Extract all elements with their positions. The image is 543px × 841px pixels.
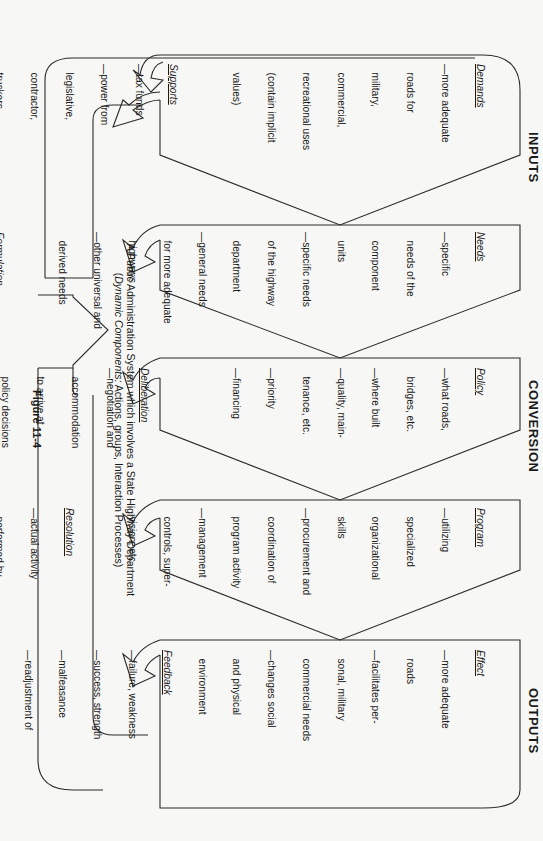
list-item: and physical [231,650,243,767]
diagram-caption: A Public Administration System which inv… [113,160,137,680]
list-item: environment [196,650,208,767]
section-title-feedback: Feedback [161,650,173,767]
list-item: —malfeasance [57,650,69,767]
list-item: department [231,232,243,329]
caption-italic: Dynamic Components: [113,276,125,382]
list-item: commercial, [335,64,347,150]
list-item: —more adequate [439,64,451,150]
list-item: program activity [231,508,243,595]
list-item: bridges, etc. [405,368,417,448]
section-title-supports: Supports [168,64,180,150]
list-item: commercial needs [300,650,312,767]
list-item: sonal, military [335,650,347,767]
section-title-effect: Effect [474,650,486,767]
list-item: recreational uses [300,64,312,150]
diagram-stage: INPUTS CONVERSION OUTPUTS Demands —more … [0,0,543,841]
list-item: —changes social [266,650,278,767]
list-item: specialized [405,508,417,595]
list-item: accommodation [69,368,81,448]
list-item: derived needs [57,232,69,329]
section-title-deliberation: Deliberation [139,368,151,448]
policy-box-text: Policy —what roads, bridges, etc. —where… [0,368,509,448]
section-title-program: Program [474,508,486,595]
list-item: —specific needs [300,232,312,329]
list-item: —facilitates per- [370,650,382,767]
list-item: —procurement and [300,508,312,595]
list-item: needs of the [405,232,417,329]
section-title-formulation: Formulation [0,232,5,329]
program-box-text: Program —utilizing specialized organizat… [0,508,509,595]
list-item: —utilizing [439,508,451,595]
list-item: policy decisions [0,368,11,448]
list-item: —financing [231,368,243,448]
list-item: of the highway [266,232,278,329]
list-item: —what roads, [439,368,451,448]
section-title-policy: Policy [474,368,486,448]
list-item: —specific [439,232,451,329]
list-item: —where built [370,368,382,448]
needs-box-text: Needs —specific needs of the component u… [0,232,509,329]
list-item: skills [335,508,347,595]
list-item: contractor, [29,64,41,150]
list-item: tenance, etc. [300,368,312,448]
caption-line-2: (Dynamic Components: Actions, groups, In… [113,160,125,680]
header-inputs: INPUTS [526,132,541,183]
list-item: units [335,232,347,329]
figure-label: Figure 11-4 [31,390,43,448]
list-item: —actual activity [29,508,41,595]
list-item: —other universal and [92,232,104,329]
list-item: —success, strength [92,650,104,767]
header-outputs: OUTPUTS [526,688,541,754]
list-item: —tax funds [133,64,145,150]
list-item: legislative, [63,64,75,150]
list-item: —readjustment of [22,650,34,767]
list-item: controls, super- [161,508,173,595]
list-item: component [370,232,382,329]
section-title-resolution: Resolution [63,508,75,595]
list-item: roads for [405,64,417,150]
list-item: (contain implicit [266,64,278,150]
list-item: organizational [370,508,382,595]
effect-box-text: Effect —more adequate roads —facilitates… [0,650,509,767]
list-item: coordination of [266,508,278,595]
list-item: —power from [98,64,110,150]
list-item: —quality, main- [335,368,347,448]
list-item: —priority [266,368,278,448]
section-title-needs: Needs [474,232,486,329]
list-item: values) [231,64,243,150]
demands-box-text: Demands —more adequate roads for militar… [0,64,509,150]
list-item: —management [196,508,208,595]
list-item: roads [405,650,417,767]
list-item: for more adequate [161,232,173,329]
section-title-demands: Demands [474,64,486,150]
list-item: —more adequate [439,650,451,767]
list-item: performed by [0,508,5,595]
caption-line-1: A Public Administration System which inv… [125,160,137,680]
list-item: —general needs [196,232,208,329]
header-conversion: CONVERSION [526,380,541,472]
list-item: military, [370,64,382,150]
list-item: truckers, [0,64,5,150]
